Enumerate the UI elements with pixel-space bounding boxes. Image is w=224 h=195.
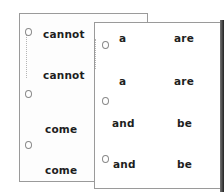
card-word: come bbox=[45, 123, 77, 135]
card-word-right: be bbox=[177, 117, 192, 129]
front-flashcard-sheet: a are a are and be and be bbox=[94, 22, 222, 189]
perforation-line bbox=[26, 32, 28, 78]
card-word-left: a bbox=[119, 32, 126, 44]
card-word-right: be bbox=[177, 158, 192, 170]
punch-hole-icon bbox=[102, 41, 109, 49]
card-word: cannot bbox=[43, 28, 85, 40]
card-word-right: are bbox=[174, 75, 194, 87]
punch-hole-icon bbox=[25, 90, 32, 98]
edge-shadow bbox=[220, 20, 224, 192]
punch-hole-icon bbox=[102, 155, 109, 163]
card-word: cannot bbox=[43, 69, 85, 81]
punch-hole-icon bbox=[25, 141, 32, 149]
punch-hole-icon bbox=[25, 28, 32, 36]
card-word-left: and bbox=[112, 117, 135, 129]
card-word: come bbox=[45, 164, 77, 176]
perforation-line bbox=[95, 39, 97, 69]
card-word-right: are bbox=[174, 32, 194, 44]
punch-hole-icon bbox=[102, 97, 109, 105]
card-word-left: and bbox=[113, 158, 136, 170]
card-word-left: a bbox=[119, 75, 126, 87]
